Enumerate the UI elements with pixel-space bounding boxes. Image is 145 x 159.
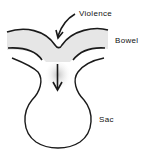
hernia-diagram [0,0,145,159]
label-violence: Violence [79,9,112,18]
label-bowel: Bowel [115,36,138,45]
violence-arrow-shaft [58,14,75,36]
label-sac: Sac [99,115,114,124]
